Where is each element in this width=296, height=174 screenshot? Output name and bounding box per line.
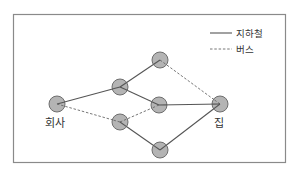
edge-bus-top-home <box>160 60 220 104</box>
node-label-home: 집 <box>214 117 224 130</box>
node-label-company: 회사 <box>45 117 65 130</box>
nodes <box>49 52 228 158</box>
edges <box>57 60 220 150</box>
edge-subway-bottom-home <box>160 104 220 150</box>
route-diagram: 지하철 버스 회사 집 <box>0 0 296 174</box>
legend-bus-label: 버스 <box>236 44 254 55</box>
legend-subway-label: 지하철 <box>236 28 263 39</box>
legend: 지하철 버스 <box>210 28 263 55</box>
edge-subway-mid-home <box>159 104 220 105</box>
edge-subway-company-a <box>57 87 120 104</box>
edge-bus-company-b <box>57 104 120 122</box>
